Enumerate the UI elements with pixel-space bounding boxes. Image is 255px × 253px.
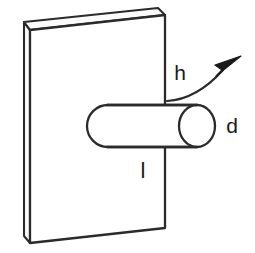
height-arrow-head (215, 56, 241, 76)
cylinder-end-cap (179, 105, 215, 147)
label-h: h (174, 61, 186, 84)
diagram-canvas: h d l (0, 0, 255, 253)
plate-pin-figure: h d l (0, 0, 255, 253)
label-l: l (141, 158, 146, 183)
label-d: d (226, 114, 238, 137)
